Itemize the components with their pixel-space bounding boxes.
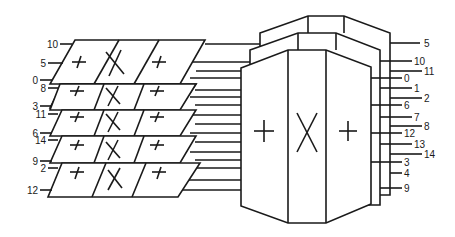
right-label-7: 6 [404,100,410,111]
left-label-2: 5 [40,58,46,69]
left-label-6: 11 [36,109,47,120]
plate-3 [50,110,196,136]
left-label-1: 10 [47,39,59,50]
plate-4 [50,136,196,163]
right-label-9: 8 [424,121,430,132]
right-label-6: 2 [424,93,430,104]
right-label-10: 12 [404,128,416,139]
plate-5 [48,163,200,197]
right-label-5: 1 [414,83,420,94]
plate-2 [50,84,196,110]
plate-1 [50,40,205,84]
right-label-4: 0 [404,73,410,84]
left-label-10: 2 [40,163,46,174]
left-label-8: 14 [35,135,47,146]
right-label-12: 14 [424,149,436,160]
block-front [241,50,371,223]
left-label-11: 12 [27,185,39,196]
right-label-14: 4 [404,168,410,179]
right-label-3: 11 [424,66,435,77]
right-label-15: 9 [404,183,410,194]
right-label-1: 5 [424,38,430,49]
left-label-9: 9 [32,156,38,167]
right-label-8: 7 [414,112,420,123]
left-label-3: 0 [32,75,38,86]
right-label-13: 3 [404,157,410,168]
plate-stack [48,40,205,197]
left-label-4: 8 [40,83,46,94]
diagram-canvas: 10 5 0 8 3 11 6 14 9 2 12 5 10 11 0 1 2 … [0,0,455,237]
